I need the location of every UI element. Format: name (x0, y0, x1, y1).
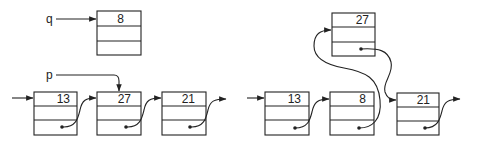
node-value: 21 (417, 93, 431, 107)
before-state: q 8 p 13 27 (12, 11, 226, 135)
variable-p-label: p (46, 68, 53, 82)
p-pointer-arrow (56, 75, 119, 91)
node-27-lifted: 27 (332, 13, 375, 56)
node-value: 27 (118, 92, 132, 106)
node-27: 27 (97, 92, 141, 135)
node-value: 8 (359, 92, 366, 106)
node-value: 27 (356, 13, 370, 27)
node-value: 8 (117, 12, 124, 26)
node-8-after: 8 (330, 92, 374, 135)
node-13: 13 (34, 92, 77, 135)
node-value: 13 (57, 92, 71, 106)
node-value: 13 (288, 92, 302, 106)
linked-list-diagram: q 8 p 13 27 (0, 0, 478, 149)
node-q: 8 (97, 11, 141, 55)
node-value: 21 (182, 92, 196, 106)
after-state: 27 13 8 21 (247, 13, 460, 135)
variable-q-label: q (46, 12, 53, 26)
node-21-after: 21 (397, 93, 439, 135)
node-21: 21 (162, 92, 206, 135)
node-13-after: 13 (265, 92, 309, 135)
